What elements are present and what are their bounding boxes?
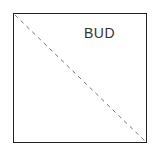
- bud-label: BUD: [84, 25, 115, 41]
- dashed-diagonal-line: [13, 13, 148, 144]
